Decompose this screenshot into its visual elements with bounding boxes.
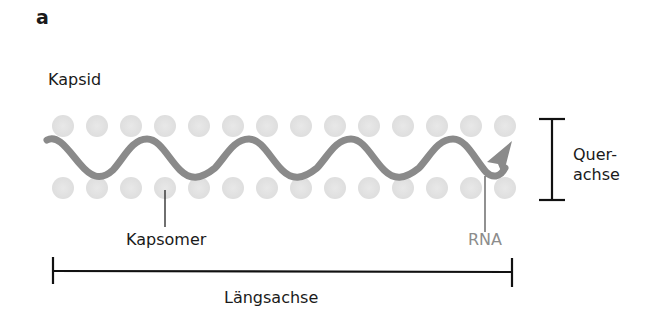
transverse-axis-bracket (539, 119, 565, 200)
capsomer (290, 115, 312, 137)
rna-strand (47, 139, 505, 178)
capsomer (358, 177, 380, 199)
capsomer (426, 177, 448, 199)
capsomer (324, 115, 346, 137)
capsomer (460, 115, 482, 137)
transverse-axis-label-line1: Quer- (573, 145, 620, 165)
capsomer (494, 115, 516, 137)
capsomer (120, 115, 142, 137)
capsomer-row-top (52, 115, 516, 137)
capsomer (256, 177, 278, 199)
capsomer (222, 177, 244, 199)
capsomer (426, 115, 448, 137)
capsomer (52, 115, 74, 137)
longitudinal-axis-label: Längsachse (224, 288, 318, 307)
capsid-diagram (0, 0, 664, 328)
longitudinal-axis-bracket (53, 257, 512, 287)
capsomer-row-bottom (52, 177, 516, 199)
capsomer (256, 115, 278, 137)
capsomer (154, 115, 176, 137)
capsomer (460, 177, 482, 199)
transverse-axis-label-line2: achse (573, 165, 620, 185)
capsomer (52, 177, 74, 199)
capsomer (392, 115, 414, 137)
capsomer (86, 115, 108, 137)
capsomer-label: Kapsomer (126, 230, 206, 249)
capsomer (358, 115, 380, 137)
capsomer (222, 115, 244, 137)
capsomer (324, 177, 346, 199)
capsomer (494, 177, 516, 199)
rna-label: RNA (468, 230, 502, 249)
transverse-axis-label: Quer- achse (573, 145, 620, 185)
capsomer (188, 115, 210, 137)
capsomer (120, 177, 142, 199)
capsomer (86, 177, 108, 199)
